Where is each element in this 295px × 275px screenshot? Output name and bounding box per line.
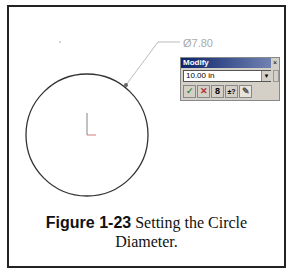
figure-caption: Figure 1-23 Setting the Circle Diameter. [7,213,286,251]
circle-point-marker [124,83,128,87]
close-icon[interactable]: × [271,58,279,68]
caption-text-line2: Diameter. [115,233,178,250]
mark-dimension-button[interactable]: ✎ [239,85,252,98]
modify-dialog: Modify × 10.00 in ▼ ✓ ✕ 8 ±? ✎ [180,57,280,101]
stray-mark [59,41,61,43]
dimension-leader-line [126,42,180,85]
chevron-down-icon[interactable]: ▼ [261,71,271,81]
modify-dialog-title: Modify [181,58,279,68]
reverse-dimension-button[interactable]: ±? [225,85,238,98]
caption-text-line1: Setting the Circle [131,214,247,231]
value-spinner[interactable] [273,70,279,82]
rebuild-button[interactable]: 8 [211,85,224,98]
dimension-label[interactable]: Ø7.80 [183,37,213,49]
figure-number: Figure 1-23 [46,214,131,231]
ok-button[interactable]: ✓ [183,85,196,98]
dimension-value-input[interactable]: 10.00 in [183,70,271,82]
cancel-button[interactable]: ✕ [197,85,210,98]
